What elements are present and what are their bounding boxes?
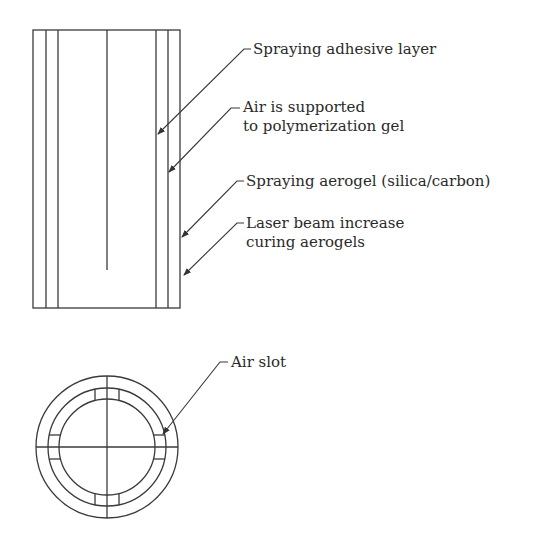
label-air-supported: Air is supported to polymerization gel xyxy=(243,98,404,136)
label-laser-beam: Laser beam increase curing aerogels xyxy=(246,214,404,252)
cross-section-leaders xyxy=(163,362,228,434)
aerogel-coating-diagram: Spraying adhesive layer Air is supported… xyxy=(0,0,546,550)
side-view-leaders xyxy=(158,49,251,275)
label-spraying-aerogel: Spraying aerogel (silica/carbon) xyxy=(246,172,490,191)
leader-adhesive-layer xyxy=(158,49,251,134)
label-air-slot: Air slot xyxy=(231,353,286,372)
leader-spraying-aerogel xyxy=(182,181,244,237)
diagram-canvas xyxy=(0,0,546,550)
cylinder-side-view xyxy=(33,30,180,308)
leader-air-slot xyxy=(163,362,228,434)
leader-laser-beam xyxy=(184,223,244,275)
cylinder-cross-section xyxy=(36,376,178,518)
label-spraying-adhesive-layer: Spraying adhesive layer xyxy=(253,40,436,59)
